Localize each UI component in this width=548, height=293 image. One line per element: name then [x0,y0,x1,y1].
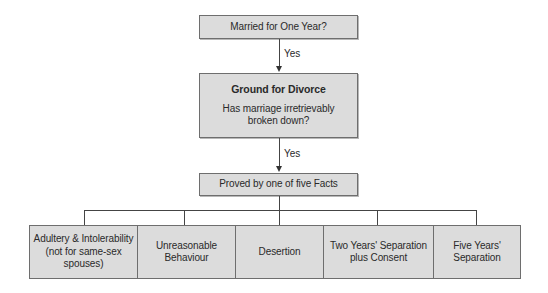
branch-drop-3 [279,210,280,225]
branch-drop-4 [377,210,378,225]
fact-1-line-1: Adultery & Intolerability [34,233,134,246]
connector-married-to-ground [279,39,280,67]
fact-desertion: Desertion [235,225,324,279]
fact-2-line-2: Behaviour [164,252,208,265]
fact-2-line-1: Unreasonable [156,240,217,253]
fact-5-line-2: Separation [453,252,500,265]
connector-proved-to-branch [279,196,280,210]
fact-two-years-separation-consent: Two Years' Separation plus Consent [323,225,434,279]
fact-1-line-3: spouses) [64,258,104,271]
fact-4-line-1: Two Years' Separation [330,240,427,253]
edge-label-yes-2: Yes [284,148,300,160]
fact-adultery-intolerability: Adultery & Intolerability (not for same-… [29,225,138,279]
arrowhead-1-icon [276,66,282,72]
connector-ground-to-proved [279,138,280,167]
fact-unreasonable-behaviour: Unreasonable Behaviour [137,225,236,279]
node-ground-title: Ground for Divorce [231,83,325,96]
fact-4-line-2: plus Consent [350,252,407,265]
branch-drop-5 [476,210,477,225]
node-proved-by-facts: Proved by one of five Facts [199,173,358,196]
fact-5-line-1: Five Years' [453,240,501,253]
node-married-one-year-label: Married for One Year? [230,21,326,34]
node-proved-label: Proved by one of five Facts [219,178,337,191]
fact-1-line-2: (not for same-sex [45,246,121,259]
fact-five-years-separation: Five Years' Separation [433,225,521,279]
branch-drop-1 [84,210,85,225]
fact-3-line-1: Desertion [259,246,301,259]
edge-label-yes-1: Yes [284,48,300,60]
branch-horizontal-line [84,210,477,211]
arrowhead-2-icon [276,166,282,172]
node-married-one-year: Married for One Year? [199,15,358,39]
node-ground-question-line1: Has marriage irretrievably [223,103,335,116]
node-ground-for-divorce: Ground for Divorce Has marriage irretrie… [199,73,358,138]
branch-drop-2 [184,210,185,225]
node-ground-question-line2: broken down? [248,115,310,128]
